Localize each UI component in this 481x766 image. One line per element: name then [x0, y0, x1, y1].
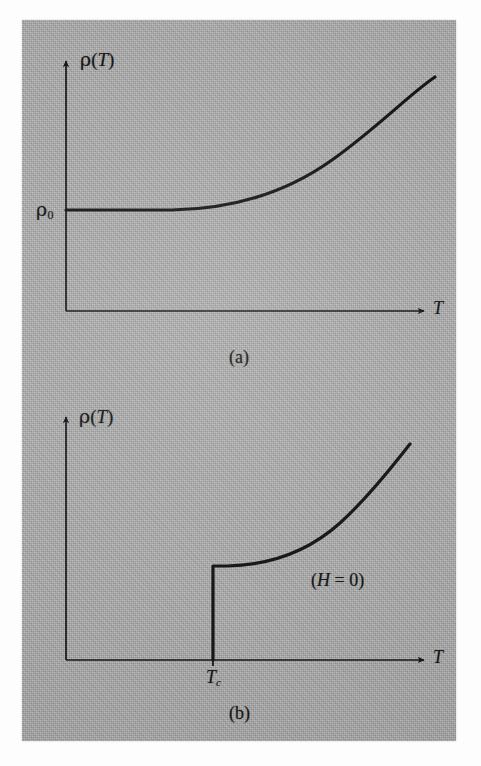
- panel-b-plot: [22, 390, 456, 741]
- temperature-variable: T: [97, 406, 108, 427]
- panel-a-y-axis-label: ρ(T): [80, 50, 114, 69]
- temperature-variable: T: [98, 49, 109, 70]
- panel-a-plot: [22, 20, 456, 390]
- panel-a-residual-resistivity-label: ρ0: [36, 200, 53, 221]
- panel-b-curve: [213, 444, 410, 660]
- tc-variable: T: [206, 667, 216, 687]
- panel-a: ρ(T) ρ0 T (a): [22, 20, 456, 390]
- panel-b-x-axis-label: T: [433, 648, 443, 666]
- panel-b: ρ(T) (H = 0) Tc T (b): [22, 390, 456, 741]
- panel-a-curve: [66, 77, 435, 210]
- panel-b-field-annotation: (H = 0): [311, 571, 364, 589]
- panel-b-y-axis-label: ρ(T): [79, 407, 113, 426]
- panel-a-caption: (a): [229, 347, 249, 368]
- figure-plate: ρ(T) ρ0 T (a): [22, 20, 456, 741]
- panel-b-critical-temperature-label: Tc: [206, 668, 221, 688]
- paren-close: ): [107, 406, 113, 427]
- panel-a-x-axis-label: T: [433, 299, 443, 317]
- rho-symbol: ρ: [79, 405, 90, 427]
- rho-symbol: ρ: [36, 198, 47, 220]
- rho-subscript: 0: [47, 208, 53, 222]
- paren-close: ): [108, 49, 114, 70]
- tc-subscript: c: [216, 676, 221, 688]
- annotation-value: = 0): [330, 570, 364, 590]
- figure-page: ρ(T) ρ0 T (a): [0, 0, 481, 766]
- panel-b-caption: (b): [229, 703, 250, 724]
- rho-symbol: ρ: [80, 48, 91, 70]
- field-variable: H: [317, 570, 330, 590]
